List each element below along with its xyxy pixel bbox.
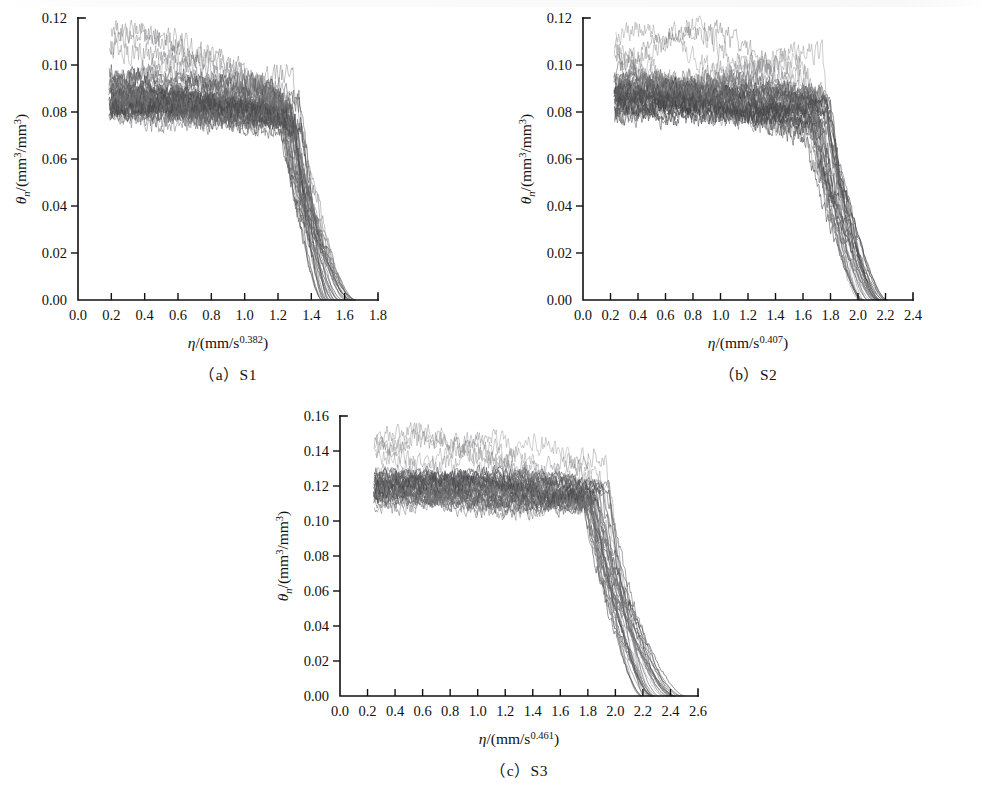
x-tick-label: 0.0 xyxy=(331,703,349,719)
x-tick-label: 1.6 xyxy=(794,307,812,323)
y-axis-ticks: 0.000.020.040.060.080.100.12 xyxy=(547,10,583,308)
x-tick-label: 0.4 xyxy=(629,307,648,323)
x-tick-label: 1.8 xyxy=(369,307,387,323)
panel-caption: （c）S3 xyxy=(479,758,559,780)
y-tick-label: 0.08 xyxy=(547,104,572,120)
y-axis-title: θn/(mm3/mm3) xyxy=(12,114,32,205)
x-tick-label: 1.2 xyxy=(496,703,514,719)
x-tick-label: 1.6 xyxy=(551,703,569,719)
y-tick-label: 0.08 xyxy=(304,548,329,564)
y-tick-label: 0.08 xyxy=(42,104,67,120)
x-tick-label: 0.6 xyxy=(169,307,187,323)
y-axis-title: θn/(mm3/mm3) xyxy=(517,114,537,205)
y-tick-label: 0.06 xyxy=(42,151,67,167)
x-tick-label: 1.8 xyxy=(821,307,839,323)
chart-panel-b: 0.00.20.40.60.81.01.21.41.61.82.02.22.40… xyxy=(505,0,975,395)
x-tick-label: 0.0 xyxy=(574,307,592,323)
plot-canvas: 0.00.20.40.60.81.01.21.41.61.80.000.020.… xyxy=(0,0,470,395)
moisture-profile-curve xyxy=(374,472,675,696)
panel-caption: （b）S2 xyxy=(708,362,788,384)
y-tick-label: 0.04 xyxy=(42,198,68,214)
x-tick-label: 2.6 xyxy=(689,703,707,719)
data-curve-bundle xyxy=(614,16,887,300)
x-tick-label: 0.2 xyxy=(358,703,376,719)
moisture-profile-curve xyxy=(375,423,663,696)
x-tick-label: 1.4 xyxy=(766,307,785,323)
x-tick-label: 2.2 xyxy=(876,307,894,323)
panel-caption: （a）S1 xyxy=(188,362,268,384)
x-tick-label: 1.4 xyxy=(524,703,543,719)
x-axis-title: η/(mm/s0.461) xyxy=(479,730,559,748)
x-tick-label: 2.4 xyxy=(904,307,923,323)
x-tick-label: 1.0 xyxy=(469,703,487,719)
x-tick-label: 1.0 xyxy=(711,307,729,323)
x-tick-label: 0.2 xyxy=(102,307,120,323)
x-tick-label: 0.6 xyxy=(414,703,432,719)
x-tick-label: 0.2 xyxy=(601,307,619,323)
y-tick-label: 0.10 xyxy=(42,57,67,73)
x-tick-label: 1.6 xyxy=(336,307,354,323)
y-axis-ticks: 0.000.020.040.060.080.100.12 xyxy=(42,10,78,308)
y-tick-label: 0.02 xyxy=(42,245,67,261)
x-axis-title: η/(mm/s0.407) xyxy=(708,334,788,352)
y-axis-ticks: 0.000.020.040.060.080.100.120.140.16 xyxy=(304,408,340,704)
x-tick-label: 0.6 xyxy=(656,307,674,323)
y-tick-label: 0.10 xyxy=(304,513,329,529)
x-axis-title: η/(mm/s0.382) xyxy=(188,334,268,352)
x-tick-label: 2.0 xyxy=(849,307,867,323)
moisture-profile-curve xyxy=(374,493,641,696)
x-tick-label: 1.8 xyxy=(579,703,597,719)
x-tick-label: 2.4 xyxy=(661,703,680,719)
x-tick-label: 1.0 xyxy=(236,307,254,323)
x-tick-label: 0.8 xyxy=(202,307,220,323)
y-axis-title: θn/(mm3/mm3) xyxy=(274,511,294,602)
x-tick-label: 0.4 xyxy=(136,307,155,323)
y-tick-label: 0.10 xyxy=(547,57,572,73)
chart-panel-c: 0.00.20.40.60.81.01.21.41.61.82.02.22.42… xyxy=(252,398,752,794)
x-tick-label: 0.0 xyxy=(69,307,87,323)
y-tick-label: 0.14 xyxy=(304,443,330,459)
x-tick-label: 0.8 xyxy=(441,703,459,719)
data-curve-bundle xyxy=(109,20,356,300)
y-tick-label: 0.00 xyxy=(547,292,572,308)
y-tick-label: 0.04 xyxy=(547,198,573,214)
x-axis-ticks: 0.00.20.40.60.81.01.21.41.61.8 xyxy=(69,293,387,323)
y-tick-label: 0.06 xyxy=(547,151,572,167)
moisture-profile-curve xyxy=(374,483,679,696)
y-tick-label: 0.02 xyxy=(304,653,329,669)
y-tick-label: 0.00 xyxy=(304,688,329,704)
y-tick-label: 0.12 xyxy=(547,10,572,26)
moisture-profile-curve xyxy=(375,485,651,696)
plot-canvas: 0.00.20.40.60.81.01.21.41.61.82.02.22.42… xyxy=(252,398,752,794)
plot-canvas: 0.00.20.40.60.81.01.21.41.61.82.02.22.40… xyxy=(505,0,975,395)
y-tick-label: 0.02 xyxy=(547,245,572,261)
x-tick-label: 1.2 xyxy=(739,307,757,323)
x-tick-label: 2.2 xyxy=(634,703,652,719)
y-tick-label: 0.12 xyxy=(304,478,329,494)
y-tick-label: 0.12 xyxy=(42,10,67,26)
y-tick-label: 0.04 xyxy=(304,618,330,634)
data-curve-bundle xyxy=(373,422,684,696)
chart-panel-a: 0.00.20.40.60.81.01.21.41.61.80.000.020.… xyxy=(0,0,470,395)
x-tick-label: 0.4 xyxy=(386,703,405,719)
x-tick-label: 2.0 xyxy=(606,703,624,719)
x-tick-label: 1.2 xyxy=(269,307,287,323)
y-tick-label: 0.00 xyxy=(42,292,67,308)
y-tick-label: 0.16 xyxy=(304,408,329,424)
y-tick-label: 0.06 xyxy=(304,583,329,599)
x-tick-label: 1.4 xyxy=(302,307,321,323)
x-tick-label: 0.8 xyxy=(684,307,702,323)
